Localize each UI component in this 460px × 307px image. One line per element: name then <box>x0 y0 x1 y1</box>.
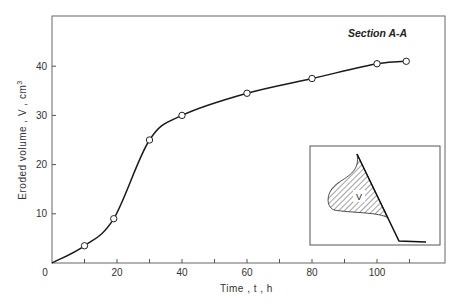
x-tick-label: 0 <box>42 267 48 278</box>
y-axis-tick-labels: 10203040 <box>36 61 48 220</box>
y-tick-label: 10 <box>36 208 48 219</box>
x-tick-label: 20 <box>111 267 123 278</box>
y-tick-label: 20 <box>36 159 48 170</box>
y-axis-title: Eroded volume , V , cm3 <box>16 80 28 199</box>
data-point-marker <box>244 90 250 96</box>
x-tick-label: 60 <box>241 267 253 278</box>
x-axis-ticks <box>85 259 410 263</box>
inset-label: V <box>356 192 362 202</box>
data-point-marker <box>179 112 185 118</box>
data-point-marker <box>309 75 315 81</box>
data-point-marker <box>374 61 380 67</box>
x-tick-label: 80 <box>306 267 318 278</box>
data-point-marker <box>111 216 117 222</box>
data-point-marker <box>81 243 87 249</box>
x-axis-title: Time , t , h <box>220 283 273 294</box>
inset-diagram: V <box>310 146 440 245</box>
x-axis-tick-labels: 020406080100 <box>42 267 386 278</box>
chart: 020406080100 10203040 Time , t , h Erode… <box>0 0 460 307</box>
y-axis-title-main: Eroded volume , V , cm <box>17 85 28 200</box>
y-axis-ticks <box>52 66 56 214</box>
x-tick-label: 40 <box>176 267 188 278</box>
section-annotation: Section A-A <box>348 27 407 39</box>
y-tick-label: 40 <box>36 61 48 72</box>
y-axis-title-superscript: 3 <box>16 80 23 84</box>
data-point-marker <box>146 137 152 143</box>
y-tick-label: 30 <box>36 110 48 121</box>
data-point-marker <box>403 58 409 64</box>
x-tick-label: 100 <box>369 267 386 278</box>
